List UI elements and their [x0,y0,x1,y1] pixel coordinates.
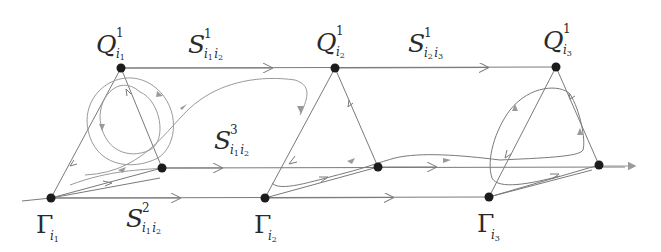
node-q-i2 [331,64,340,73]
orbit-arrow [512,104,518,111]
label-s1-i1i2: S 1 i1 i2 [188,32,205,57]
orbit-arrow [180,104,187,110]
orbit-arrow [347,158,355,164]
node-p-i1 [158,164,167,173]
node-gamma-i2 [261,194,270,203]
label-s2-i1i2: S 2 i1 i2 [126,206,143,231]
middle-connection-line [162,166,632,168]
triangle-cell-2 [265,68,500,198]
node-q-i1 [117,64,126,73]
node-gamma-i1 [47,194,56,203]
arrow-s1-i2i3 [335,68,488,69]
label-q-i2: Q 1 i2 [316,30,337,55]
label-gamma-i3: Γ i3 [477,211,494,236]
label-gamma-i2: Γ i2 [254,212,271,237]
label-q-i3: Q 1 i3 [543,28,564,53]
node-gamma-i3 [485,193,494,202]
bottom-connection-line [22,197,489,201]
label-s3-i1i2: S 3 i1 i2 [214,128,231,153]
orbit-arrow [443,158,451,163]
orbit-arrow [297,106,304,114]
orbit-arrow [99,124,105,131]
triangle-cell-3 [489,67,599,197]
label-q-i1: Q 1 i1 [96,32,117,57]
label-gamma-i1: Γ i1 [36,212,53,237]
triangle-cell-1 [51,68,162,198]
node-p-i3 [595,161,604,170]
periodic-orbit-1 [70,78,307,185]
node-q-i3 [552,63,561,72]
node-p-i2 [374,163,383,172]
label-s1-i2i3: S 1 i2 i3 [408,31,425,56]
